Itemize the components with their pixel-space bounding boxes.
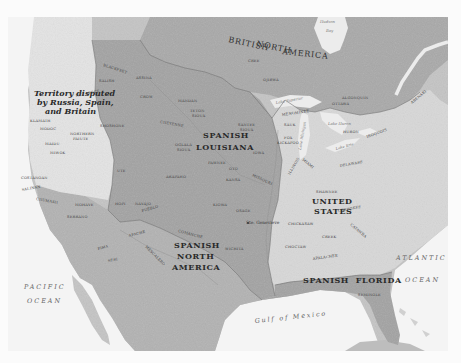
tribe-santee-sioux-1: SANTEE (238, 123, 255, 127)
tribe-osage: OSAGE (236, 209, 251, 213)
label-hudson-2: Bay (325, 28, 334, 33)
label-united-states-1: UNITED (312, 196, 353, 206)
tribe-santee-sioux-2: SIOUX (240, 128, 254, 132)
tribe-oglala-sioux-2: SIOUX (177, 148, 191, 152)
tribe-kansa: KANSA (226, 178, 241, 182)
tribe-shoshone: SHOSHONE (100, 124, 125, 128)
label-atlantic-1: ATLANTIC (395, 254, 447, 262)
tribe-pawnee: PAWNEE (208, 161, 226, 165)
tribe-hopi: HOPI (115, 202, 126, 206)
tribe-kickapoo: KICKAPOO (277, 141, 299, 145)
tribe-arapaho: ARAPAHO (165, 175, 186, 179)
label-spanish-na-1: SPANISH (174, 240, 220, 250)
tribe-northern-paiute-2: PAIUTE (73, 137, 89, 141)
tribe-mandan: MANDAN (178, 99, 197, 103)
tribe-maidu: MAIDU (45, 142, 60, 146)
tribe-iowa: IOWA (253, 151, 264, 155)
tribe-serrano: SERRANO (67, 215, 88, 219)
tribe-salish: SALISH (99, 79, 115, 83)
tribe-huron: HURON (343, 130, 359, 134)
map-frame (8, 17, 448, 351)
tribe-ojibwa: OJIBWA (263, 78, 279, 82)
tribe-kiowa: KIOWA (213, 203, 227, 207)
tribe-assina: ASSINA (135, 76, 152, 80)
tribe-modoc: MODOC (40, 127, 56, 131)
tribe-miwok: MIWOK (50, 151, 66, 155)
tribe-shawnee: SHAWNEE (316, 190, 338, 194)
label-disputed-3: and Britain (45, 106, 96, 116)
tribe-ottawa: OTTAWA (332, 102, 350, 106)
tribe-wichita: WICHITA (225, 247, 244, 251)
tribe-navajo: NAVAJO (135, 202, 151, 206)
label-ste-genevieve: Ste. Genevieve (246, 220, 280, 225)
label-lake-huron: Lake Huron (327, 121, 351, 126)
label-hudson-1: Hudson (319, 19, 335, 24)
city-labels: Ste. Genevieve (246, 220, 280, 225)
historical-map-north-america: BRITISH NORTH AMERICA SPANISH LOUISIANA … (0, 0, 461, 363)
label-atlantic-2: OCEAN (405, 276, 440, 284)
tribe-costanoan: COSTANOAN (21, 176, 48, 180)
label-pacific-2: OCEAN (27, 297, 62, 305)
tribe-choctaw: CHOCTAW (285, 245, 306, 249)
tribe-oglala-sioux-1: OGLALA (175, 143, 192, 147)
tribe-northern-paiute-1: NORTHERN (70, 132, 94, 136)
tribe-klamath: KLAMATH (30, 119, 51, 123)
label-pacific-1: PACIFIC (23, 283, 66, 291)
tribe-cree: CREE (248, 59, 260, 63)
tribe-teton-sioux-1: TETON (190, 109, 205, 113)
label-spanish-louisiana-2: LOUISIANA (196, 142, 254, 152)
tribe-algonquin: ALGONQUIN (341, 96, 368, 100)
tribe-oto: OTO (229, 167, 238, 171)
tribe-fox: FOX (284, 136, 293, 140)
tribe-sauk: SAUK (284, 123, 296, 127)
label-spanish-na-2: NORTH (177, 251, 214, 261)
tribe-seminole: SEMINOLE (358, 293, 381, 297)
tribe-teton-sioux-2: SIOUX (192, 114, 206, 118)
tribe-mohave: MOHAVE (75, 203, 94, 207)
tribe-chickasaw: CHICKASAW (288, 222, 314, 226)
label-spanish-na-3: AMERICA (171, 262, 221, 272)
tribe-creek: CREEK (322, 235, 337, 239)
tribe-ute: UTE (117, 169, 126, 173)
label-spanish-florida: SPANISH FLORIDA (303, 275, 402, 285)
tribe-crow: CROW (140, 95, 153, 99)
